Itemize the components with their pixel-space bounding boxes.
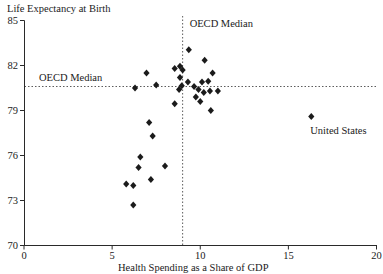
x-axis-title: Health Spending as a Share of GDP [118,262,269,273]
data-point [208,107,214,114]
oecd-median-vline-label: OECD Median [190,18,254,29]
data-point [205,78,211,85]
data-point [185,79,191,86]
data-point [199,79,205,86]
x-tick-label: 0 [21,250,26,261]
data-point [172,65,178,72]
y-tick-label: 85 [8,15,19,26]
data-point [197,98,203,105]
data-point [186,46,192,53]
data-point [132,85,138,92]
data-point [193,94,199,101]
united-states-data-point [308,113,314,120]
x-tick-label: 10 [195,250,206,261]
data-point [177,74,183,81]
x-tick-label: 20 [371,250,382,261]
oecd-median-hline-label: OECD Median [39,72,103,83]
data-point [153,82,159,89]
data-point [207,88,213,95]
data-point [209,70,215,77]
life-expectancy-vs-health-spending-scatter-chart: 70737679828505101520Life Expectancy at B… [0,0,383,274]
y-tick-label: 70 [8,240,19,251]
y-tick-label: 79 [8,105,19,116]
data-point [123,181,129,188]
data-point [137,154,143,161]
data-point [148,176,154,183]
data-point [150,133,156,140]
x-tick-label: 15 [283,250,294,261]
data-point [202,57,208,64]
data-point [201,89,207,96]
chart-page: 70737679828505101520Life Expectancy at B… [0,0,383,274]
data-point [130,182,136,189]
data-point [162,163,168,170]
x-tick-label: 5 [110,250,115,261]
united-states-label: United States [310,125,366,136]
data-point [172,100,178,107]
y-tick-label: 82 [8,60,19,71]
y-tick-label: 73 [8,195,19,206]
data-point [135,164,141,171]
chart-title: Life Expectancy at Birth [7,3,111,14]
data-point [130,202,136,209]
y-tick-label: 76 [8,150,19,161]
data-point [143,70,149,77]
data-point [146,119,152,126]
data-point [215,88,221,95]
